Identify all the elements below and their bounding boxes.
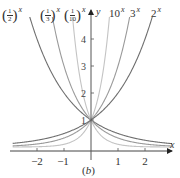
y-tick-label-3: 3 [81, 61, 86, 72]
label-three-pow-x: 3x [130, 8, 140, 19]
x-tick-label-neg1: −1 [57, 155, 69, 167]
label-ten-pow-x: 10x [109, 8, 125, 19]
x-tick-label-1: 1 [115, 155, 121, 167]
label-tenth-pow-x: (110)x [64, 6, 86, 23]
curve-2 [13, 0, 172, 147]
x-axis-label: x [170, 139, 174, 150]
figure-caption: (b) [82, 164, 95, 176]
curve-group [13, 0, 172, 147]
y-tick-label-1: 1 [81, 115, 86, 126]
x-tick-label-2: 2 [142, 155, 148, 167]
label-half-pow-x: (12)x [2, 6, 22, 23]
y-axis-label: y [96, 6, 100, 17]
x-tick-label-neg2: −2 [31, 155, 43, 167]
y-tick-label-4: 4 [81, 34, 86, 45]
exponential-functions-chart [0, 0, 180, 178]
label-two-pow-x: 2x [151, 8, 161, 19]
y-tick-label-2: 2 [81, 88, 86, 99]
label-third-pow-x: (13)x [40, 6, 60, 23]
curve-3 [13, 0, 172, 147]
